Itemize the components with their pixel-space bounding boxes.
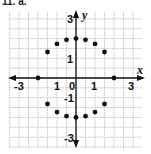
x-tick-label: 3 [128, 80, 134, 92]
data-point [55, 110, 60, 115]
x-tick-label: -3 [14, 80, 24, 92]
data-point [112, 76, 117, 81]
y-tick-label: -3 [64, 132, 74, 144]
data-point [45, 50, 50, 55]
data-point [55, 42, 60, 47]
data-point [45, 102, 50, 107]
data-point [64, 114, 69, 119]
data-point [74, 115, 79, 120]
data-point [64, 37, 69, 42]
data-point [93, 110, 98, 115]
data-point [83, 114, 88, 119]
data-point [102, 50, 107, 55]
y-axis-up-arrow-icon [73, 10, 79, 18]
x-tick-label: 1 [91, 80, 97, 92]
coordinate-plane: 11. a. -3 1 0 1 3 3 1 -1 -3 y x [0, 0, 151, 154]
y-tick-label: -1 [64, 92, 74, 104]
x-tick-label: 0 [69, 80, 75, 92]
y-tick-label: 1 [67, 53, 73, 65]
data-point [74, 36, 79, 41]
x-axis-label: x [136, 63, 143, 77]
data-point [93, 42, 98, 47]
data-point [102, 102, 107, 107]
data-point [83, 37, 88, 42]
y-axis-label: y [80, 8, 88, 22]
problem-label: 11. a. [2, 0, 27, 7]
data-point [36, 76, 41, 81]
y-tick-label: 3 [67, 13, 73, 25]
x-tick-label: 1 [54, 80, 60, 92]
